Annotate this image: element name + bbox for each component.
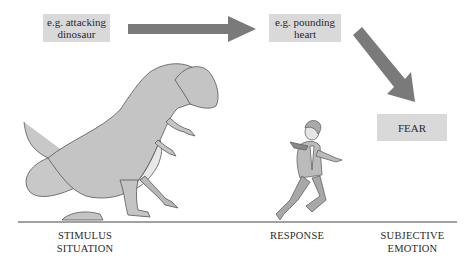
stage-label-response: RESPONSE (262, 229, 332, 242)
response-example-line-2: heart (294, 28, 316, 40)
arrow-down-right-icon (353, 27, 415, 102)
running-man-illustration (276, 121, 342, 220)
stage-label-stimulus: STIMULUS SITUATION (50, 229, 120, 255)
stage-response-line-1: RESPONSE (262, 229, 332, 242)
dinosaur-illustration (24, 64, 218, 220)
stimulus-example-line-1: e.g. attacking (47, 16, 106, 28)
response-example-box: e.g. pounding heart (269, 14, 341, 42)
stimulus-example-line-2: dinosaur (58, 28, 96, 40)
stage-stimulus-line-2: SITUATION (50, 242, 120, 255)
stage-emotion-line-2: EMOTION (375, 242, 450, 255)
stage-label-subjective-emotion: SUBJECTIVE EMOTION (375, 229, 450, 255)
stimulus-example-box: e.g. attacking dinosaur (43, 14, 110, 42)
emotion-label: FEAR (398, 122, 426, 134)
stage-stimulus-line-1: STIMULUS (50, 229, 120, 242)
arrow-right-icon (128, 16, 256, 42)
emotion-box: FEAR (377, 114, 447, 141)
stage-emotion-line-1: SUBJECTIVE (375, 229, 450, 242)
response-example-line-1: e.g. pounding (275, 16, 335, 28)
